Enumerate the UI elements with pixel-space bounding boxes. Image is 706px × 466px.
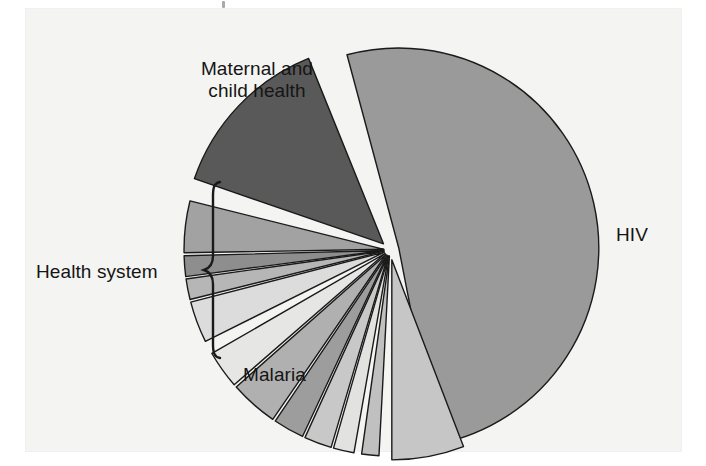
pie-slice-group	[184, 48, 599, 460]
pie-chart	[0, 0, 706, 466]
slice-label-malaria: Malaria	[243, 364, 306, 386]
slice-label-health-system: Health system	[36, 261, 158, 283]
slice-label-hiv: HIV	[616, 224, 648, 246]
slice-label-maternal-child-health: Maternal and child health	[178, 58, 336, 102]
health-system-brace-icon	[200, 180, 226, 360]
figure-container: Maternal and child health HIV Malaria He…	[0, 0, 706, 466]
pie-slice	[347, 48, 599, 444]
